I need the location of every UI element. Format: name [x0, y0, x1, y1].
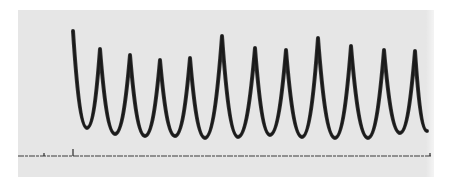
- baseline-marks: [44, 149, 430, 156]
- waveform-trace-canvas: [0, 0, 452, 183]
